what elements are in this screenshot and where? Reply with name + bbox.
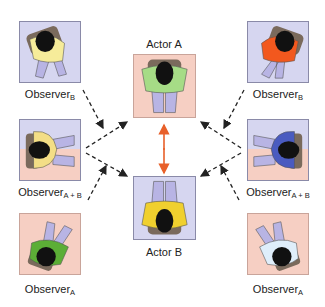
person-top-view-icon <box>134 55 195 117</box>
observer-a-right-box <box>247 213 309 275</box>
actor-b-box <box>133 176 196 240</box>
gaze-arrow-right-mid-to-a <box>201 122 241 148</box>
observer-b-right-box <box>247 21 309 83</box>
observer-ab-left-box <box>19 119 81 181</box>
observer-ab-right-box <box>247 119 309 181</box>
gaze-arrow-left-mid-to-b <box>86 153 127 176</box>
person-top-view-icon <box>248 120 308 180</box>
gaze-arrow-right-mid-to-b <box>201 153 241 176</box>
person-top-view-icon <box>248 22 308 82</box>
person-top-view-icon <box>20 22 80 82</box>
person-top-view-icon <box>248 214 308 274</box>
observer-b-left-label: ObserverB <box>5 88 95 102</box>
observer-b-right-label: ObserverB <box>233 88 323 102</box>
person-top-view-icon <box>134 177 195 239</box>
observer-a-right-label: ObserverA <box>233 283 323 297</box>
observer-a-left-box <box>19 213 81 275</box>
observer-ab-left-label: ObserverA + B <box>5 186 95 200</box>
observer-b-left-box <box>19 21 81 83</box>
observer-ab-right-label: ObserverA + B <box>233 186 323 200</box>
observer-a-left-label: ObserverA <box>5 283 95 297</box>
person-top-view-icon <box>20 214 80 274</box>
person-top-view-icon <box>20 120 80 180</box>
actor-b-label: Actor B <box>119 246 209 258</box>
gaze-arrow-left-mid-to-a <box>86 122 127 148</box>
actor-a-box <box>133 54 196 118</box>
actor-a-label: Actor A <box>119 38 209 50</box>
